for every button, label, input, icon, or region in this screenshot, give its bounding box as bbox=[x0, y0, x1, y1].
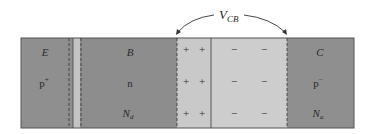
base-type: n bbox=[127, 77, 133, 89]
vcb-arrow-right bbox=[244, 15, 285, 32]
plus-charge-icon: + bbox=[183, 43, 189, 55]
depletion-negative-region bbox=[211, 38, 287, 128]
plus-charge-icon: + bbox=[183, 107, 189, 119]
collector-label: C bbox=[316, 46, 324, 58]
minus-charge-icon: − bbox=[231, 43, 237, 55]
minus-charge-icon: − bbox=[261, 75, 267, 87]
plus-charge-icon: + bbox=[199, 43, 205, 55]
minus-charge-icon: − bbox=[231, 107, 237, 119]
vcb-arrow-left bbox=[178, 15, 214, 32]
plus-charge-icon: + bbox=[199, 75, 205, 87]
minus-charge-icon: − bbox=[261, 43, 267, 55]
base-label: B bbox=[127, 46, 134, 58]
plus-charge-icon: + bbox=[199, 107, 205, 119]
plus-charge-icon: + bbox=[183, 75, 189, 87]
vcb-label: VCB bbox=[219, 7, 239, 24]
emitter-label: E bbox=[41, 46, 49, 58]
bjt-diagram: VCB E p+ B n Nd C p− Na + + + + + + − − … bbox=[0, 0, 375, 134]
emitter-strip-light bbox=[73, 38, 80, 128]
minus-charge-icon: − bbox=[261, 107, 267, 119]
minus-charge-icon: − bbox=[231, 75, 237, 87]
